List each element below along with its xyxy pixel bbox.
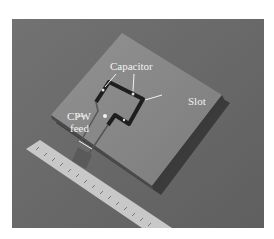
antenna-photo: Capacitor Slot CPW feed [12,19,264,228]
label-feed: feed [70,123,89,134]
label-cpw: CPW [67,111,91,122]
via-dot [103,114,107,118]
capacitor-left [102,89,105,92]
label-capacitor: Capacitor [110,61,153,72]
label-slot: Slot [188,96,206,107]
photo-scene [12,19,264,228]
capacitor-right [132,93,135,96]
capacitor-bottom [123,119,125,121]
